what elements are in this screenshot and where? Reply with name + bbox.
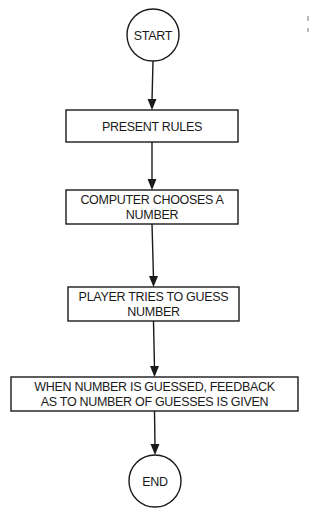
node-rules: PRESENT RULES bbox=[66, 110, 238, 142]
node-guess: PLAYER TRIES TO GUESSNUMBER bbox=[68, 287, 239, 321]
feedback-label-line: WHEN NUMBER IS GUESSED, FEEDBACK bbox=[34, 380, 275, 394]
connector-line bbox=[152, 224, 154, 278]
scan-artifact bbox=[307, 16, 309, 21]
connector-line bbox=[155, 411, 156, 446]
node-choose: COMPUTER CHOOSES ANUMBER bbox=[66, 190, 238, 224]
choose-label-line: NUMBER bbox=[126, 208, 179, 222]
node-feedback: WHEN NUMBER IS GUESSED, FEEDBACKAS TO NU… bbox=[11, 377, 298, 411]
arrowhead-icon bbox=[150, 366, 159, 377]
arrow-guess-to-feedback bbox=[150, 321, 159, 377]
guess-label-line: PLAYER TRIES TO GUESS bbox=[79, 290, 229, 304]
arrowhead-icon bbox=[148, 99, 157, 110]
arrow-feedback-to-end bbox=[151, 411, 160, 455]
arrow-choose-to-guess bbox=[149, 224, 158, 287]
guess-label-line: NUMBER bbox=[127, 305, 180, 319]
scan-artifact bbox=[307, 28, 309, 32]
connector-line bbox=[154, 321, 155, 368]
rules-label-line: PRESENT RULES bbox=[102, 120, 202, 134]
node-end: END bbox=[129, 455, 181, 507]
connector-line bbox=[152, 61, 153, 101]
start-label-line: START bbox=[134, 29, 173, 43]
arrow-rules-to-choose bbox=[148, 142, 157, 190]
arrowhead-icon bbox=[151, 444, 160, 455]
choose-label-line: COMPUTER CHOOSES A bbox=[80, 193, 224, 207]
end-label-line: END bbox=[142, 475, 168, 489]
feedback-label-line: AS TO NUMBER OF GUESSES IS GIVEN bbox=[41, 395, 269, 409]
arrowhead-icon bbox=[149, 276, 158, 287]
flowchart: STARTPRESENT RULESCOMPUTER CHOOSES ANUMB… bbox=[0, 0, 311, 512]
arrow-start-to-rules bbox=[148, 61, 157, 110]
arrowhead-icon bbox=[148, 179, 157, 190]
node-start: START bbox=[127, 9, 179, 61]
